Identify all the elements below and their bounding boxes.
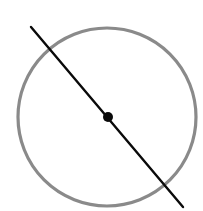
diagram-canvas xyxy=(0,0,203,211)
center-point xyxy=(103,112,113,122)
